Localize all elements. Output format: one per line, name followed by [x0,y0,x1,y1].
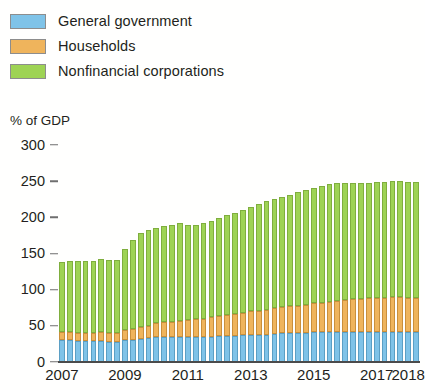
bar-segment-nonfinancial-corporations [390,181,396,297]
bar-segment-general-government [146,338,152,362]
bar-segment-general-government [303,333,309,362]
bar-segment-households [295,306,301,333]
plot-area: 050100150200250300 [58,145,420,362]
bar-segment-nonfinancial-corporations [334,183,340,301]
bar-segment-general-government [279,333,285,362]
bar-segment-households [397,297,403,332]
bar-segment-households [279,307,285,333]
y-tick-mark [50,361,58,362]
bar-segment-households [287,306,293,333]
legend-item-nonfinancial-corporations: Nonfinancial corporations [10,59,224,84]
bar-segment-nonfinancial-corporations [248,207,254,312]
bar-segment-households [390,297,396,332]
bar-2015Q3 [327,184,333,362]
y-tick-mark [50,144,58,145]
bar-segment-households [240,313,246,335]
chart-legend: General government Households Nonfinanci… [10,9,224,84]
y-tick-200: 200 [6,210,58,225]
bar-segment-nonfinancial-corporations [122,249,128,330]
bar-2011Q4 [209,221,215,362]
bar-2010Q1 [153,228,159,362]
bar-segment-nonfinancial-corporations [224,215,230,315]
bar-segment-households [177,321,183,338]
bar-segment-general-government [240,335,246,362]
bar-2010Q3 [169,225,175,362]
legend-item-general-government: General government [10,9,224,34]
bar-segment-households [201,319,207,338]
x-tick-label-2013: 2013 [234,366,267,383]
bar-2013Q4 [272,199,278,362]
legend-label-nonfinancial-corporations: Nonfinancial corporations [58,64,224,79]
bar-2009Q2 [130,240,136,362]
bar-2017Q2 [382,182,388,362]
bar-segment-general-government [216,336,222,362]
bar-segment-general-government [350,332,356,362]
bar-segment-general-government [264,335,270,362]
legend-swatch-general-government [10,14,46,29]
x-axis-labels: 2007200920112013201520172018 [0,366,424,390]
y-tick-label: 250 [21,174,45,189]
bar-segment-general-government [98,341,104,362]
bar-segment-nonfinancial-corporations [319,186,325,303]
bar-segment-nonfinancial-corporations [374,182,380,298]
bar-segment-general-government [224,336,230,362]
bar-2016Q3 [358,183,364,362]
bar-2015Q2 [319,186,325,362]
bar-segment-nonfinancial-corporations [161,226,167,322]
bar-segment-households [114,333,120,342]
bar-segment-nonfinancial-corporations [397,181,403,297]
bar-segment-general-government [138,339,144,362]
bar-segment-nonfinancial-corporations [240,210,246,313]
y-tick-mark [50,180,58,181]
bar-segment-general-government [153,337,159,362]
bar-2014Q1 [279,197,285,362]
bar-segment-households [169,322,175,338]
bar-segment-households [311,303,317,332]
bar-segment-households [91,333,97,341]
bar-2016Q2 [350,183,356,362]
bar-segment-nonfinancial-corporations [279,197,285,307]
bar-segment-households [98,332,104,341]
bar-segment-general-government [319,332,325,362]
bar-2009Q3 [138,233,144,362]
bar-segment-general-government [327,332,333,362]
bar-segment-general-government [397,332,403,362]
bar-segment-general-government [405,332,411,362]
bar-segment-nonfinancial-corporations [169,225,175,322]
bar-segment-households [106,333,112,342]
bar-segment-households [413,298,419,332]
bar-segment-nonfinancial-corporations [342,183,348,300]
bar-segment-households [374,298,380,332]
bar-segment-general-government [311,332,317,362]
bar-segment-general-government [122,340,128,362]
bar-segment-general-government [366,332,372,362]
bar-2010Q4 [177,223,183,362]
bar-segment-nonfinancial-corporations [201,223,207,318]
bar-segment-nonfinancial-corporations [405,182,411,298]
bar-2008Q1 [91,261,97,362]
bar-segment-nonfinancial-corporations [264,201,270,310]
bar-segment-households [334,301,340,332]
bar-segment-nonfinancial-corporations [350,183,356,299]
bar-segment-households [350,299,356,332]
bar-segment-nonfinancial-corporations [366,183,372,299]
y-tick-label: 150 [21,246,45,261]
bar-segment-households [146,326,152,338]
bar-segment-households [264,310,270,335]
bar-segment-households [232,314,238,336]
bar-segment-general-government [358,332,364,362]
bar-segment-nonfinancial-corporations [153,228,159,323]
bar-segment-nonfinancial-corporations [327,184,333,302]
bar-segment-nonfinancial-corporations [177,223,183,321]
bar-2016Q4 [366,183,372,362]
x-tick-label-2007: 2007 [45,366,78,383]
bar-2014Q3 [295,192,301,362]
bar-segment-households [405,298,411,332]
y-tick-50: 50 [6,319,58,334]
y-tick-250: 250 [6,174,58,189]
bar-segment-nonfinancial-corporations [232,213,238,314]
bar-segment-general-government [390,332,396,362]
bar-2014Q2 [287,195,293,362]
bar-segment-households [138,327,144,339]
